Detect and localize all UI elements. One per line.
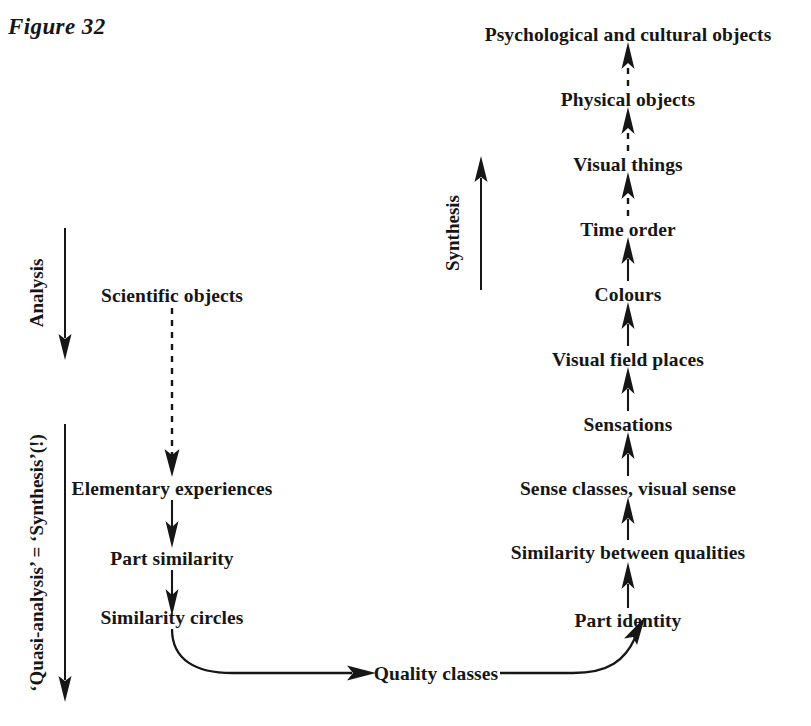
node-psychological-and-cultural-objects: Psychological and cultural objects [485,25,772,45]
axis-caption-quasi-analysis: ‘Quasi-analysis’ = ‘Synthesis’(!) [27,434,46,692]
node-sense-classes-visual-sense: Sense classes, visual sense [520,479,736,499]
edge-colours-to-time-order [622,237,635,281]
edge-scientific-objects-to-elementary-experiences [165,308,180,477]
axis-arrow-quasi-analysis [59,424,72,702]
edge-visual-field-places-to-colours [622,302,635,346]
node-similarity-between-qualities: Similarity between qualities [511,543,746,563]
figure-canvas: Figure 32 [0,0,811,726]
edge-similarity-circles-to-quality-classes [172,629,376,681]
edge-sensations-to-visual-field-places [622,367,635,411]
node-elementary-experiences: Elementary experiences [72,479,273,499]
node-similarity-circles: Similarity circles [101,608,244,628]
edge-sense-classes-visual-sense-to-sensations [622,432,635,476]
axis-arrow-analysis [59,228,72,360]
figure-title: Figure 32 [8,14,106,40]
node-visual-field-places: Visual field places [552,350,704,370]
node-part-similarity: Part similarity [110,549,233,569]
edge-visual-things-to-physical-objects [622,107,635,151]
axis-arrow-synthesis [475,156,488,290]
node-visual-things: Visual things [573,155,683,175]
axis-caption-synthesis: Synthesis [443,195,462,271]
node-time-order: Time order [580,220,675,240]
node-colours: Colours [595,285,662,305]
node-physical-objects: Physical objects [561,90,695,110]
node-quality-classes: Quality classes [374,664,498,684]
edge-part-identity-to-similarity-between-qualities [622,562,635,608]
edge-elementary-experiences-to-part-similarity [166,500,179,548]
axis-caption-analysis: Analysis [27,259,46,328]
node-sensations: Sensations [584,415,673,435]
edge-similarity-between-qualities-to-sense-classes-visual-sense [622,497,635,540]
edge-time-order-to-visual-things [622,172,635,216]
node-scientific-objects: Scientific objects [101,286,243,306]
node-part-identity: Part identity [575,611,682,631]
edge-physical-objects-to-psychological-and-cultural-objects [622,42,635,86]
